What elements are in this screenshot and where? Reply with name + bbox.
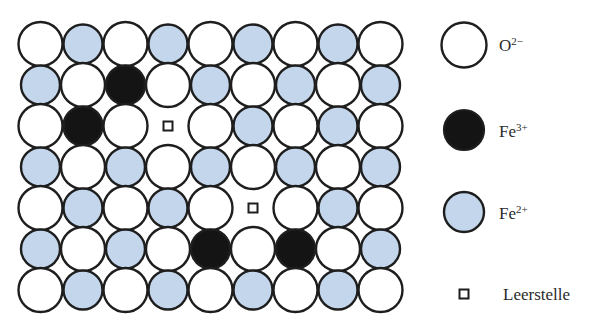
legend-fe3-charge: 3+ [516, 121, 528, 133]
oxide-ion [316, 63, 360, 107]
fe2-ion [234, 107, 273, 146]
lattice-grid [19, 22, 403, 312]
fe2-ion [64, 25, 103, 64]
oxide-ion [274, 268, 318, 312]
oxide-ion [104, 104, 148, 148]
fe2-ion [319, 107, 358, 146]
oxide-ion [231, 63, 275, 107]
oxide-ion [274, 186, 318, 230]
legend-oxide-charge: 2− [511, 35, 523, 47]
fe2-ion [149, 271, 188, 310]
legend-label-fe3: Fe3+ [499, 122, 528, 140]
fe3-ion [64, 107, 103, 146]
oxide-ion [146, 63, 190, 107]
oxide-ion [19, 268, 63, 312]
fe3-ion [191, 230, 230, 269]
fe2-ion [106, 148, 145, 187]
fe2-ion [276, 66, 315, 105]
legend-fe2-symbol: Fe [499, 204, 516, 223]
fe2-ion [319, 189, 358, 228]
legend-icons [442, 23, 487, 299]
fe2-ion [21, 230, 60, 269]
legend-oxide-icon [442, 23, 487, 68]
oxide-ion [231, 227, 275, 271]
oxide-ion [231, 145, 275, 189]
oxide-ion [316, 227, 360, 271]
oxide-ion [359, 22, 403, 66]
oxide-ion [104, 22, 148, 66]
legend-fe3-icon [444, 110, 484, 150]
oxide-ion [19, 186, 63, 230]
fe2-ion [276, 148, 315, 187]
fe2-ion [149, 189, 188, 228]
oxide-ion [61, 63, 105, 107]
fe2-ion [64, 271, 103, 310]
oxide-ion [146, 227, 190, 271]
fe2-ion [361, 230, 400, 269]
fe2-ion [21, 66, 60, 105]
oxide-ion [104, 186, 148, 230]
legend-vacancy-text: Leerstelle [503, 285, 570, 304]
oxide-ion [189, 186, 233, 230]
oxide-ion [359, 104, 403, 148]
legend-vacancy-icon [460, 290, 469, 299]
fe2-ion [64, 189, 103, 228]
fe2-ion [106, 230, 145, 269]
oxide-ion [61, 145, 105, 189]
fe2-ion [319, 271, 358, 310]
legend-label-oxide: O2− [499, 36, 523, 54]
fe3-ion [276, 230, 315, 269]
fe2-ion [21, 148, 60, 187]
oxide-ion [19, 104, 63, 148]
vacancy-site [249, 204, 258, 213]
oxide-ion [189, 268, 233, 312]
fe2-ion [149, 25, 188, 64]
legend-oxide-symbol: O [499, 36, 511, 55]
fe2-ion [234, 271, 273, 310]
fe2-ion [191, 66, 230, 105]
oxide-ion [274, 22, 318, 66]
legend-label-fe2: Fe2+ [499, 204, 528, 222]
legend-fe2-icon [444, 192, 484, 232]
oxide-ion [61, 227, 105, 271]
fe2-ion [234, 25, 273, 64]
oxide-ion [359, 268, 403, 312]
oxide-ion [146, 145, 190, 189]
oxide-ion [189, 22, 233, 66]
legend-label-vacancy: Leerstelle [503, 286, 570, 303]
fe2-ion [191, 148, 230, 187]
oxide-ion [274, 104, 318, 148]
fe3-ion [106, 66, 145, 105]
oxide-ion [189, 104, 233, 148]
fe2-ion [361, 148, 400, 187]
legend-fe3-symbol: Fe [499, 122, 516, 141]
oxide-ion [104, 268, 148, 312]
vacancy-site [164, 122, 173, 131]
oxide-ion [359, 186, 403, 230]
oxide-ion [316, 145, 360, 189]
fe2-ion [361, 66, 400, 105]
fe2-ion [319, 25, 358, 64]
oxide-ion [19, 22, 63, 66]
legend-fe2-charge: 2+ [516, 203, 528, 215]
